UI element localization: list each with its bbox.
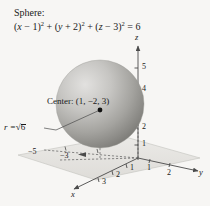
sphere-equation: (x − 1)2 + (y + 2)2 + (z − 3)2 = 6 [14,21,140,32]
eq-equals: = 6 [125,21,141,32]
figure-caption-title: Sphere: [14,8,45,18]
y-axis-label: y [199,168,203,177]
z-tick-1: 1 [142,140,146,148]
z-tick-2: 2 [142,123,146,131]
negative-tick-5: −5 [28,148,37,156]
z-axis-label: z [135,33,138,42]
radius-prefix: r = [4,122,16,132]
eq-plus-2: + ( [85,21,99,32]
eq-op-2: + 2 [62,21,78,32]
negative-tick-3: −3 [60,152,69,160]
x-tick-2: 2 [116,171,120,179]
sqrt-bar [21,124,26,125]
eq-op-3: − 3 [103,21,119,32]
center-annotation: Center: (1, −2, 3) [47,97,109,106]
sqrt-group: √6 [16,123,25,132]
eq-plus-1: + ( [44,21,58,32]
z-tick-5: 5 [142,63,146,71]
z-tick-4: 4 [142,85,146,93]
x-axis-label: x [71,190,75,199]
eq-op-1: − 1 [22,21,38,32]
sphere-diagram: Sphere: (x − 1)2 + (y + 2)2 + (z − 3)2 =… [0,0,210,206]
radius-annotation: r =√6 [4,123,25,132]
x-tick-1: 1 [130,164,134,172]
x-tick-3: 3 [102,178,106,186]
y-tick-2: 2 [167,169,171,177]
y-tick-1: 1 [147,164,151,172]
center-point [98,108,103,113]
